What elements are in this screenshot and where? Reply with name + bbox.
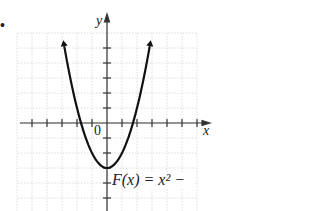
origin-label: 0 — [94, 124, 101, 138]
x-axis-label: x — [203, 124, 209, 138]
y-axis-label: y — [96, 14, 102, 28]
function-label: F(x) = x² − — [112, 172, 195, 188]
